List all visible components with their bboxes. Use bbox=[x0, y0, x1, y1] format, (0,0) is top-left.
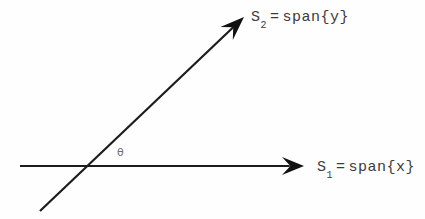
diagonal-axis-line bbox=[40, 27, 233, 211]
diagonal-axis-subscript: 2 bbox=[261, 20, 268, 31]
angle-theta-label: θ bbox=[117, 146, 124, 159]
horizontal-axis-label: S1=span{x} bbox=[317, 160, 415, 178]
horizontal-axis-symbol: S bbox=[317, 159, 327, 176]
horizontal-axis-subscript: 1 bbox=[327, 170, 334, 181]
diagonal-axis-expression: span{y} bbox=[283, 9, 350, 26]
horizontal-axis-expression: span{x} bbox=[349, 159, 416, 176]
diagonal-axis-symbol: S bbox=[251, 9, 261, 26]
diagonal-axis-equals: = bbox=[267, 9, 283, 26]
vector-subspace-diagram: S2=span{y} S1=span{x} θ bbox=[0, 0, 425, 219]
diagram-canvas bbox=[0, 0, 425, 219]
horizontal-axis-equals: = bbox=[333, 159, 349, 176]
diagonal-axis-label: S2=span{y} bbox=[251, 10, 349, 28]
